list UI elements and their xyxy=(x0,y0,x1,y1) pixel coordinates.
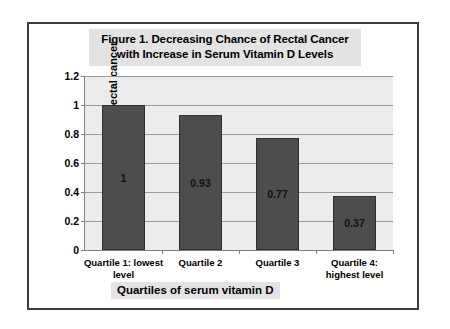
y-tick-label: 0.6 xyxy=(64,157,79,169)
y-tick-label: 0.8 xyxy=(64,128,79,140)
chart-title-line-1: Figure 1. Decreasing Chance of Rectal Ca… xyxy=(93,32,357,47)
x-tick-mark xyxy=(162,250,163,254)
bar-value-label: 1 xyxy=(121,172,127,184)
x-category-label-line: Quartile 4: xyxy=(309,257,401,269)
y-tick-label: 1 xyxy=(73,99,79,111)
bar-value-label: 0.37 xyxy=(344,217,364,229)
x-category-label-line: highest level xyxy=(309,269,401,281)
x-tick-mark xyxy=(393,250,394,254)
y-tick-label: 0 xyxy=(73,244,79,256)
chart-title: Figure 1. Decreasing Chance of Rectal Ca… xyxy=(89,29,361,66)
gridline xyxy=(85,76,393,77)
y-tick-mark xyxy=(81,221,85,222)
y-tick-mark xyxy=(81,76,85,77)
x-axis-title: Quartiles of serum vitamin D xyxy=(111,282,280,299)
y-tick-label: 0.4 xyxy=(64,186,79,198)
bar-value-label: 0.93 xyxy=(190,177,210,189)
y-tick-label: 0.2 xyxy=(64,215,79,227)
y-tick-label: 1.2 xyxy=(64,70,79,82)
x-tick-mark xyxy=(239,250,240,254)
y-tick-mark xyxy=(81,163,85,164)
y-tick-mark xyxy=(81,134,85,135)
figure-root: Figure 1. Decreasing Chance of Rectal Ca… xyxy=(0,0,450,329)
chart-frame: Figure 1. Decreasing Chance of Rectal Ca… xyxy=(27,22,419,310)
plot-area: % risk of rectal cancer 00.20.40.60.811.… xyxy=(84,76,393,251)
x-tick-mark xyxy=(316,250,317,254)
x-category-label: Quartile 4:highest level xyxy=(309,257,401,280)
chart-title-line-2: with Increase in Serum Vitamin D Levels xyxy=(93,47,357,62)
y-tick-mark xyxy=(81,250,85,251)
x-category-label-line: level xyxy=(78,269,170,281)
bar-value-label: 0.77 xyxy=(267,188,287,200)
y-tick-mark xyxy=(81,105,85,106)
y-tick-mark xyxy=(81,192,85,193)
